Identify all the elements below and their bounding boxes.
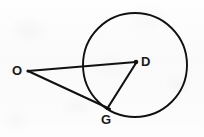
segment-OD: [28, 62, 136, 71]
point-D-dot: [134, 60, 139, 65]
vertex-label-O: O: [12, 64, 22, 77]
point-O-dot: [26, 69, 29, 72]
segment-OG: [28, 71, 110, 109]
geometry-figure: O D G: [0, 0, 204, 137]
vertex-label-G: G: [101, 113, 111, 126]
vertex-label-D: D: [141, 55, 150, 68]
segment-DG: [107, 63, 136, 109]
